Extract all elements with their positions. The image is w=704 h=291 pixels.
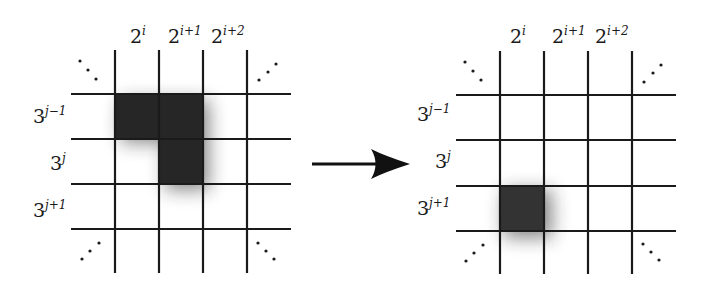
left-col-label-2: 2i+1 [168,24,202,47]
left-row-label-2: 3j [50,151,66,174]
right-ellipsis-bottom-right-icon [641,242,660,261]
right-col-label-1: 2i [510,24,526,47]
arrow-right-icon [312,149,410,179]
right-ellipsis-top-right-icon [642,63,662,83]
left-grid: 2i 2i+1 2i+2 3j−1 3j 3j+1 [33,24,291,273]
right-ellipsis-top-left-icon [463,60,482,81]
diagram-canvas: 2i 2i+1 2i+2 3j−1 3j 3j+1 [0,0,704,291]
left-col-label-3: 2i+2 [211,24,245,47]
right-col-label-2: 2i+1 [552,24,586,47]
left-ellipsis-top-left-icon [78,59,97,80]
right-row-label-2: 3j [435,149,451,172]
right-col-label-3: 2i+2 [595,24,629,47]
left-ellipsis-bottom-left-icon [80,241,100,260]
left-shaded-region [115,94,209,190]
right-grid: 2i 2i+1 2i+2 3j−1 3j 3j+1 [417,24,676,274]
left-row-label-3: 3j+1 [33,198,67,221]
left-row-label-1: 3j−1 [33,104,67,127]
right-row-label-3: 3j+1 [417,196,451,219]
left-ellipsis-bottom-right-icon [256,241,275,260]
right-ellipsis-bottom-left-icon [464,243,484,262]
right-row-label-1: 3j−1 [417,102,451,125]
left-col-label-1: 2i [130,24,146,47]
left-ellipsis-top-right-icon [257,62,277,81]
